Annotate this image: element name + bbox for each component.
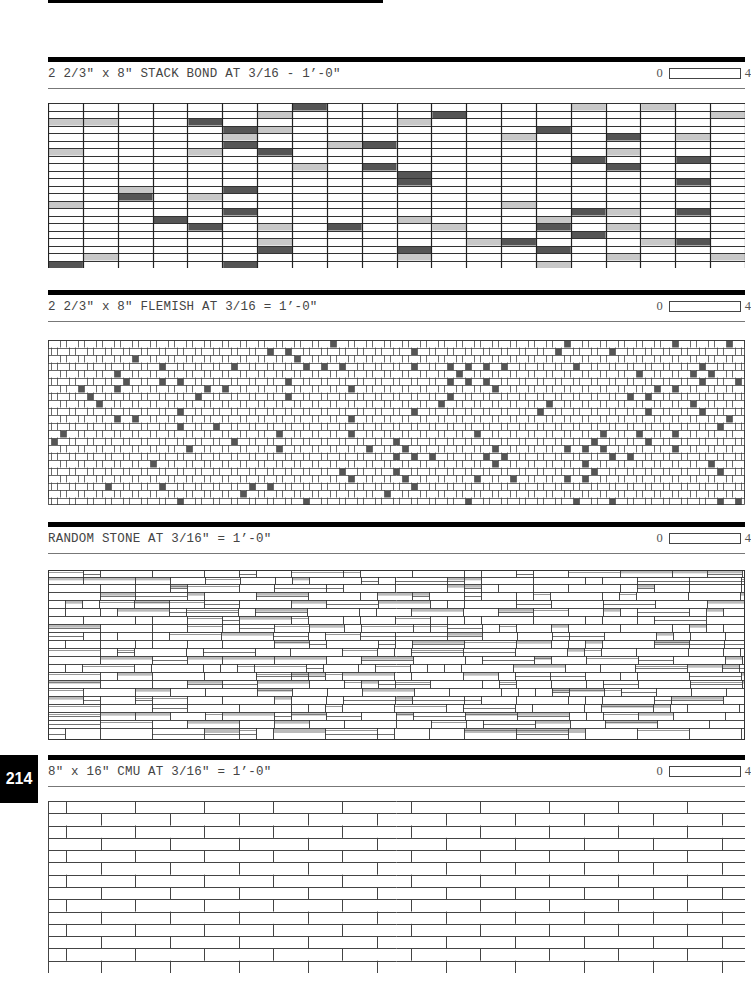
scale-graphic — [669, 68, 741, 79]
scale-start: 0 — [657, 299, 663, 314]
section-bar — [48, 522, 745, 527]
section-flemish: 2 2/3" x 8" FLEMISH AT 3/16 = 1’-0" 0 4 — [48, 290, 751, 515]
scale-end: 4 — [745, 531, 751, 546]
section-bar — [48, 755, 745, 760]
scale-bar: 0 4 — [657, 764, 751, 778]
top-rule — [48, 0, 383, 3]
section-rule — [48, 786, 745, 787]
scale-end: 4 — [745, 66, 751, 81]
scale-bar: 0 4 — [657, 531, 751, 545]
section-title: 8" x 16" CMU AT 3/16" = 1’-0" — [48, 765, 271, 779]
section-bar — [48, 290, 745, 295]
scale-end: 4 — [745, 764, 751, 779]
section-stack-bond: 2 2/3" x 8" STACK BOND AT 3/16 - 1’-0" 0… — [48, 57, 751, 282]
section-rule — [48, 321, 745, 322]
scale-start: 0 — [657, 66, 663, 81]
page-number-tab: 214 — [0, 755, 38, 803]
section-cmu: 8" x 16" CMU AT 3/16" = 1’-0" 0 4 — [48, 755, 751, 980]
section-rule — [48, 88, 745, 89]
cmu-pattern — [48, 801, 745, 973]
scale-bar: 0 4 — [657, 66, 751, 80]
section-title: RANDOM STONE AT 3/16" = 1’-0" — [48, 532, 271, 546]
scale-graphic — [669, 766, 741, 777]
stack-bond-pattern — [48, 103, 745, 268]
flemish-pattern — [48, 340, 745, 505]
random-stone-pattern — [48, 570, 745, 740]
scale-graphic — [669, 301, 741, 312]
scale-start: 0 — [657, 764, 663, 779]
section-random-stone: RANDOM STONE AT 3/16" = 1’-0" 0 4 — [48, 522, 751, 747]
scale-graphic — [669, 533, 741, 544]
section-rule — [48, 553, 745, 554]
section-title: 2 2/3" x 8" FLEMISH AT 3/16 = 1’-0" — [48, 300, 318, 314]
section-title: 2 2/3" x 8" STACK BOND AT 3/16 - 1’-0" — [48, 67, 341, 81]
section-bar — [48, 57, 745, 62]
scale-end: 4 — [745, 299, 751, 314]
scale-start: 0 — [657, 531, 663, 546]
scale-bar: 0 4 — [657, 299, 751, 313]
